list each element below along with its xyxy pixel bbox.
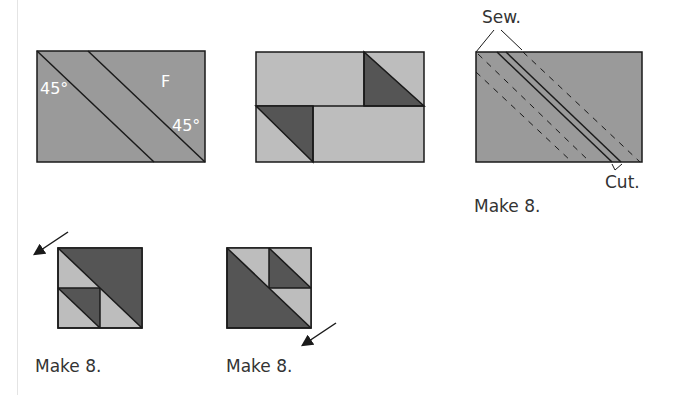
make-label-panel-5: Make 8. [226,356,292,376]
quilt-diagram [0,0,675,395]
panel-1-cut-rectangle [37,51,205,162]
fabric-label-f: F [161,72,170,91]
make-label-panel-4: Make 8. [35,356,101,376]
angle-label-left: 45° [40,79,68,98]
sew-label: Sew. [482,7,521,27]
panel-2-strip-units [256,52,424,162]
panel-4-block [58,248,142,328]
panel-5-block [227,248,311,328]
panel-3-sew-cut-rectangle [476,30,642,170]
cut-label: Cut. [605,172,640,192]
make-label-panel-3: Make 8. [474,196,540,216]
angle-label-right: 45° [172,116,200,135]
